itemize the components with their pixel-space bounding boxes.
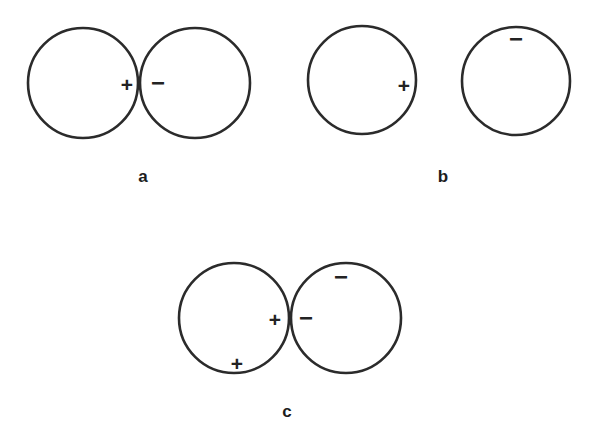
panel-c-label: c	[282, 402, 291, 421]
panel-c-plus-sign-contact: +	[269, 308, 281, 331]
panel-b-label: b	[438, 167, 448, 186]
panel-b-minus-sign: −	[509, 25, 523, 52]
canvas-background	[0, 0, 599, 433]
panel-b-plus-sign: +	[398, 74, 410, 97]
charged-circles-diagram: + − a + − b + − + − c	[0, 0, 599, 433]
panel-a-plus-sign: +	[121, 73, 133, 96]
panel-c-plus-sign-lower-left: +	[231, 352, 243, 375]
panel-c-minus-sign-contact: −	[299, 304, 313, 331]
panel-a-label: a	[138, 167, 148, 186]
panel-a-minus-sign: −	[151, 69, 165, 96]
figure-root: + − a + − b + − + − c	[0, 0, 599, 433]
panel-c-minus-sign-upper-right: −	[334, 263, 348, 290]
